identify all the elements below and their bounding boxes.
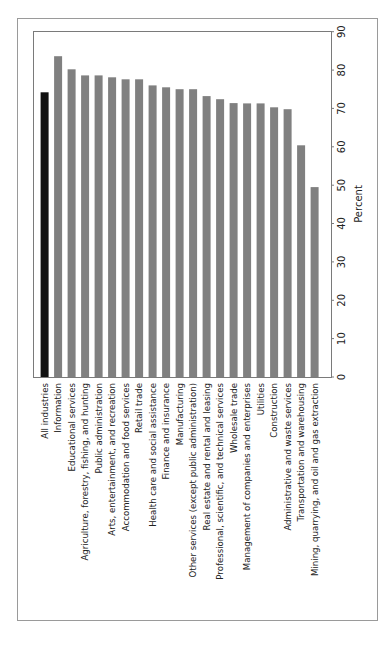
category-label: Professional, scientific, and technical …	[215, 382, 225, 579]
bar	[68, 69, 76, 377]
tick-label: 60	[336, 140, 347, 153]
tick-label: 50	[336, 179, 347, 192]
bar	[216, 99, 224, 377]
tick-label: 80	[336, 64, 347, 77]
category-label: Finance and insurance	[161, 383, 171, 480]
bars-group	[41, 56, 319, 377]
category-labels: All industriesInformationEducational ser…	[40, 382, 320, 579]
category-label: Public administration	[94, 383, 104, 474]
bar	[284, 109, 292, 377]
bar-chart: 0102030405060708090 All industriesInform…	[0, 0, 392, 650]
bar	[270, 107, 278, 377]
category-label: Transportation and warehousing	[296, 383, 306, 523]
tick-label: 40	[336, 217, 347, 230]
bar	[81, 75, 89, 377]
value-axis: 0102030405060708090	[331, 25, 347, 380]
tick-label: 90	[336, 25, 347, 38]
bar	[41, 92, 49, 377]
axis-title: Percent	[353, 185, 364, 223]
bar	[108, 77, 116, 377]
category-label: Arts, entertainment, and recreation	[107, 383, 117, 536]
bar	[149, 85, 157, 377]
bar	[311, 187, 319, 377]
bar	[122, 79, 130, 377]
category-label: Administrative and waste services	[283, 382, 293, 530]
bar	[297, 145, 305, 377]
bar	[189, 89, 197, 377]
tick-label: 0	[336, 374, 347, 380]
bar	[203, 96, 211, 377]
bar	[54, 56, 62, 377]
category-label: Health care and social assistance	[148, 383, 158, 527]
bar	[243, 103, 251, 377]
bar	[230, 103, 238, 377]
category-label: Accommodation and food services	[121, 382, 131, 531]
category-label: Agriculture, forestry, fishing, and hunt…	[80, 383, 90, 561]
bar	[95, 75, 103, 377]
bar	[162, 87, 170, 377]
tick-label: 30	[336, 256, 347, 269]
category-label: Other services (except public administra…	[188, 383, 198, 577]
category-label: Utilities	[256, 382, 266, 415]
category-label: Construction	[269, 383, 279, 438]
category-label: Information	[53, 383, 63, 433]
category-label: Mining, quarrying, and oil and gas extra…	[310, 383, 320, 576]
category-label: Manufacturing	[175, 383, 185, 445]
tick-label: 10	[336, 332, 347, 345]
bar	[135, 79, 143, 377]
category-label: Management of companies and enterprises	[242, 382, 252, 570]
tick-label: 70	[336, 102, 347, 115]
bar	[176, 89, 184, 377]
category-label: Wholesale trade	[229, 383, 239, 453]
tick-label: 20	[336, 294, 347, 307]
category-label: Retail trade	[134, 383, 144, 433]
category-label: Educational services	[67, 382, 77, 471]
category-label: Real estate and rental and leasing	[202, 383, 212, 530]
bar	[257, 103, 265, 377]
category-label: All industries	[40, 382, 50, 438]
